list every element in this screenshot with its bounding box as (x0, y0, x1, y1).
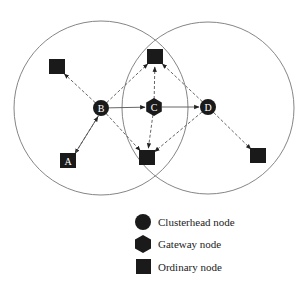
ordinary-node-icon (139, 150, 155, 165)
node-label: A (64, 156, 72, 167)
ordinary-node-A: A (60, 153, 76, 168)
edge-C-O3 (148, 115, 153, 148)
node-label: D (204, 102, 211, 113)
ordinary-node-icon (250, 148, 266, 163)
edge-C-O2 (154, 67, 155, 99)
edge-B-O1 (64, 74, 95, 103)
gateway-node-C: C (146, 98, 162, 116)
ordinary-node-icon (136, 259, 151, 274)
gateway-icon (135, 235, 151, 253)
clusterhead-node-B: B (93, 100, 109, 116)
legend-item-clusterhead: Clusterhead node (135, 214, 235, 230)
legend-item-ordinary: Ordinary node (136, 259, 222, 274)
edge-A-B (74, 117, 97, 155)
ordinary-node-O3 (139, 150, 155, 165)
edge-B-O2 (107, 64, 148, 103)
legend-label: Clusterhead node (158, 216, 235, 228)
cluster-network-diagram: BCDA Clusterhead node Gateway node Ordin… (0, 0, 307, 289)
edge-B-O3 (106, 114, 140, 151)
ordinary-node-icon (147, 49, 163, 64)
edge-D-O3 (155, 112, 202, 151)
legend-label: Gateway node (158, 238, 221, 250)
clusterhead-node-D: D (200, 99, 216, 115)
clusterhead-icon (135, 214, 151, 230)
legend-label: Ordinary node (158, 261, 222, 273)
legend-item-gateway: Gateway node (135, 235, 221, 253)
ordinary-node-O4 (250, 148, 266, 163)
ordinary-node-O2 (147, 49, 163, 64)
node-label: C (151, 102, 158, 113)
nodes: BCDA (49, 49, 266, 168)
node-label: B (98, 103, 105, 114)
edge-D-O2 (162, 64, 202, 102)
edge-B-C (109, 107, 145, 108)
edge-D-O4 (214, 113, 251, 149)
ordinary-node-O1 (49, 59, 65, 74)
ordinary-node-icon (49, 59, 65, 74)
legend: Clusterhead node Gateway node Ordinary n… (135, 214, 235, 274)
